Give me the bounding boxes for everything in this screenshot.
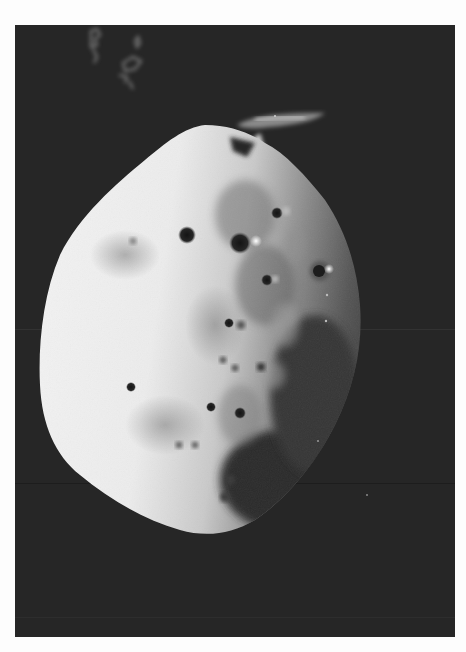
crater [192, 442, 198, 448]
photo-frame [15, 25, 455, 637]
crater [220, 357, 226, 363]
crater [178, 226, 196, 244]
crater [224, 318, 234, 328]
crater [220, 492, 230, 502]
image-subject: Cratered irregular moon photographed in … [0, 0, 1, 1]
crater [257, 363, 265, 371]
crater [271, 207, 283, 219]
crater [234, 407, 246, 419]
crater-bright-rim [282, 207, 290, 215]
star-speck [274, 115, 276, 117]
crater [176, 442, 182, 448]
scan-line [15, 617, 455, 618]
crater-bright-rim [272, 276, 278, 282]
crater [130, 238, 136, 244]
crater [232, 365, 238, 371]
crater [229, 232, 251, 254]
star-speck [317, 440, 319, 442]
star-speck [325, 320, 327, 322]
crater [206, 402, 216, 412]
crater [126, 382, 136, 392]
page: Cratered irregular moon photographed in … [0, 0, 466, 652]
crater-bright-rim [324, 264, 334, 274]
crater [261, 274, 273, 286]
star-speck [366, 494, 368, 496]
moon-photograph [15, 25, 455, 637]
star-speck [326, 294, 328, 296]
crater [225, 475, 235, 485]
crater-bright-rim [250, 235, 262, 247]
crater [313, 265, 325, 277]
crater [237, 321, 245, 329]
